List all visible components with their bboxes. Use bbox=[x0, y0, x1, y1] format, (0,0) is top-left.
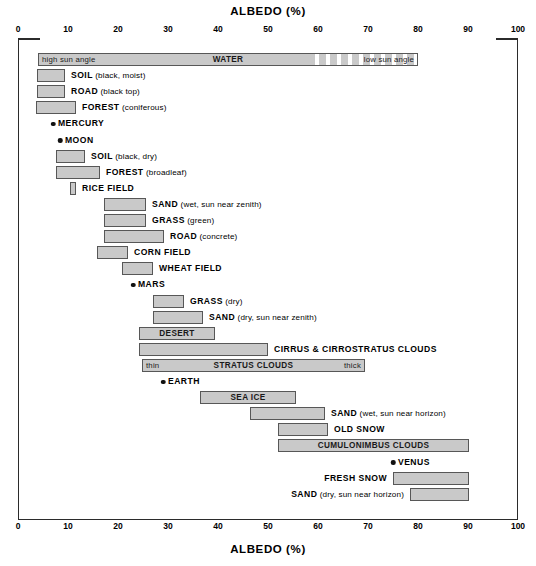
bar-label-main: CIRRUS & CIRROSTRATUS CLOUDS bbox=[274, 344, 437, 354]
chart-row: GRASS (green) bbox=[0, 214, 536, 229]
bar-label-main: ROAD bbox=[170, 231, 197, 241]
bar-label-main: RICE FIELD bbox=[82, 183, 134, 193]
bar-label: FOREST (coniferous) bbox=[82, 101, 167, 114]
chart-row: MARS bbox=[0, 278, 536, 293]
bar-label-qualifier: (coniferous) bbox=[120, 103, 167, 112]
bar-inner-label-center: DESERT bbox=[159, 327, 194, 340]
range-bar[interactable] bbox=[393, 472, 469, 485]
range-bar[interactable] bbox=[139, 343, 268, 356]
bar-label: SAND (dry, sun near horizon) bbox=[291, 488, 404, 501]
range-bar[interactable] bbox=[37, 85, 65, 98]
point-label: MERCURY bbox=[58, 117, 104, 130]
x-tick-90: 90 bbox=[463, 521, 472, 531]
range-bar[interactable] bbox=[37, 69, 65, 82]
range-bar[interactable] bbox=[104, 230, 164, 243]
range-bar[interactable] bbox=[97, 246, 128, 259]
bar-label-qualifier: (broadleaf) bbox=[144, 168, 187, 177]
range-bar[interactable] bbox=[104, 214, 146, 227]
chart-row: FOREST (broadleaf) bbox=[0, 166, 536, 181]
chart-row: CUMULONIMBUS CLOUDS bbox=[0, 439, 536, 454]
point-marker-mercury[interactable] bbox=[51, 122, 56, 127]
bar-label-main: OLD SNOW bbox=[334, 424, 385, 434]
x-tick-40: 40 bbox=[213, 521, 222, 531]
bar-label-qualifier: (green) bbox=[185, 216, 215, 225]
bar-label: SOIL (black, moist) bbox=[71, 69, 145, 82]
bar-label-main: FOREST bbox=[106, 167, 144, 177]
bar-label-main: FRESH SNOW bbox=[324, 473, 387, 483]
range-bar[interactable] bbox=[153, 295, 184, 308]
range-bar[interactable] bbox=[278, 423, 328, 436]
point-label: MOON bbox=[65, 134, 94, 147]
bar-inner-label-center: CUMULONIMBUS CLOUDS bbox=[318, 439, 430, 452]
chart-title-bottom: ALBEDO (%) bbox=[0, 543, 536, 555]
bar-label-qualifier: (black, dry) bbox=[113, 152, 157, 161]
bar-inner-label-center: SEA ICE bbox=[231, 391, 266, 404]
bar-label-qualifier: (concrete) bbox=[197, 232, 237, 241]
bar-label-qualifier: (black top) bbox=[98, 87, 140, 96]
point-label: EARTH bbox=[168, 375, 200, 388]
range-bar[interactable] bbox=[70, 182, 76, 195]
x-tick-0: 0 bbox=[16, 521, 21, 531]
range-bar[interactable] bbox=[104, 198, 146, 211]
range-bar[interactable] bbox=[410, 488, 469, 501]
x-tick-30: 30 bbox=[163, 521, 172, 531]
chart-row: FOREST (coniferous) bbox=[0, 101, 536, 116]
bar-label-main: SAND bbox=[331, 408, 357, 418]
bar-label-main: SOIL bbox=[71, 70, 93, 80]
bar-label-qualifier: (wet, sun near horizon) bbox=[357, 409, 446, 418]
albedo-chart: ALBEDO (%) 0102030405060708090100 high s… bbox=[0, 0, 536, 566]
bar-label: SAND (dry, sun near zenith) bbox=[209, 311, 317, 324]
chart-row: WHEAT FIELD bbox=[0, 262, 536, 277]
bar-label: OLD SNOW bbox=[334, 423, 385, 436]
bar-label: FOREST (broadleaf) bbox=[106, 166, 187, 179]
bar-label: SAND (wet, sun near horizon) bbox=[331, 407, 446, 420]
bar-label-main: GRASS bbox=[190, 296, 223, 306]
bar-label-qualifier: (dry, sun near zenith) bbox=[235, 313, 317, 322]
bar-label: FRESH SNOW bbox=[324, 472, 387, 485]
bar-label: ROAD (concrete) bbox=[170, 230, 237, 243]
range-bar[interactable] bbox=[36, 101, 76, 114]
chart-row: SOIL (black, moist) bbox=[0, 69, 536, 84]
range-bar[interactable] bbox=[153, 311, 203, 324]
bar-label-qualifier: (dry, sun near horizon) bbox=[317, 490, 404, 499]
x-tick-100: 100 bbox=[511, 521, 525, 531]
range-bar[interactable] bbox=[56, 166, 100, 179]
bar-label-main: SOIL bbox=[91, 151, 113, 161]
bar-label: CIRRUS & CIRROSTRATUS CLOUDS bbox=[274, 343, 437, 356]
chart-row: SAND (dry, sun near horizon) bbox=[0, 488, 536, 503]
bar-inner-label-right: low sun angle bbox=[364, 53, 414, 66]
bar-label: ROAD (black top) bbox=[71, 85, 140, 98]
point-marker-mars[interactable] bbox=[131, 283, 136, 288]
bar-label: GRASS (dry) bbox=[190, 295, 243, 308]
bar-inner-label-center: STRATUS CLOUDS bbox=[214, 359, 294, 372]
bar-label: GRASS (green) bbox=[152, 214, 214, 227]
point-marker-earth[interactable] bbox=[161, 380, 166, 385]
chart-row: SAND (wet, sun near zenith) bbox=[0, 198, 536, 213]
bar-inner-label-left: thin bbox=[146, 359, 159, 372]
chart-row: GRASS (dry) bbox=[0, 295, 536, 310]
x-tick-70: 70 bbox=[363, 521, 372, 531]
x-tick-20: 20 bbox=[113, 521, 122, 531]
bar-label: WHEAT FIELD bbox=[159, 262, 222, 275]
chart-row: SAND (wet, sun near horizon) bbox=[0, 407, 536, 422]
bar-label-qualifier: (wet, sun near zenith) bbox=[178, 200, 262, 209]
range-bar[interactable] bbox=[250, 407, 325, 420]
range-bar[interactable] bbox=[122, 262, 153, 275]
point-marker-venus[interactable] bbox=[391, 460, 396, 465]
x-tick-50: 50 bbox=[263, 521, 272, 531]
chart-row: high sun angleWATERlow sun angle bbox=[0, 53, 536, 68]
bar-label: SOIL (black, dry) bbox=[91, 150, 157, 163]
range-bar[interactable] bbox=[56, 150, 85, 163]
chart-row: VENUS bbox=[0, 456, 536, 471]
point-marker-moon[interactable] bbox=[58, 138, 63, 143]
bar-label-main: SAND bbox=[209, 312, 235, 322]
bar-label-main: GRASS bbox=[152, 215, 185, 225]
chart-row: MOON bbox=[0, 134, 536, 149]
bar-label-qualifier: (dry) bbox=[223, 297, 243, 306]
bar-label-main: CORN FIELD bbox=[134, 247, 191, 257]
point-label: MARS bbox=[138, 278, 165, 291]
bar-inner-label-center: WATER bbox=[213, 53, 244, 66]
bar-label-main: SAND bbox=[152, 199, 178, 209]
chart-row: EARTH bbox=[0, 375, 536, 390]
bar-label: CORN FIELD bbox=[134, 246, 191, 259]
